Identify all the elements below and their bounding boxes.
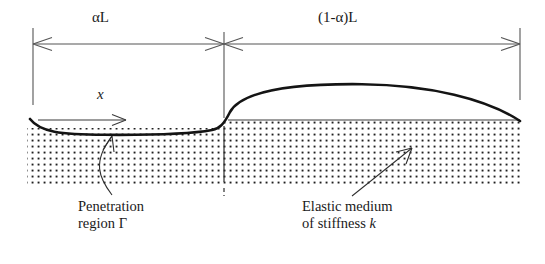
- figure-container: αL (1-α)L x Penetration region Γ Elastic…: [0, 0, 545, 264]
- stiffness-symbol: k: [369, 215, 375, 231]
- callout-penetration-line2: region Γ: [78, 215, 144, 232]
- dimension-label-alpha-L: αL: [92, 9, 109, 27]
- elastic-medium-fill: [24, 117, 524, 189]
- x-axis-arrow: [38, 115, 126, 126]
- dimension-group: [33, 28, 520, 118]
- callout-elastic-line2: of stiffness k: [302, 215, 393, 232]
- callout-elastic-line2-text: of stiffness: [302, 215, 369, 231]
- callout-penetration-region: Penetration region Γ: [78, 198, 144, 232]
- callout-elastic-medium: Elastic medium of stiffness k: [302, 198, 393, 232]
- axis-label-x: x: [97, 86, 104, 104]
- dimension-label-one-minus-alpha-L: (1-α)L: [318, 9, 358, 27]
- callout-elastic-line1: Elastic medium: [302, 198, 393, 215]
- callout-penetration-line1: Penetration: [78, 198, 144, 215]
